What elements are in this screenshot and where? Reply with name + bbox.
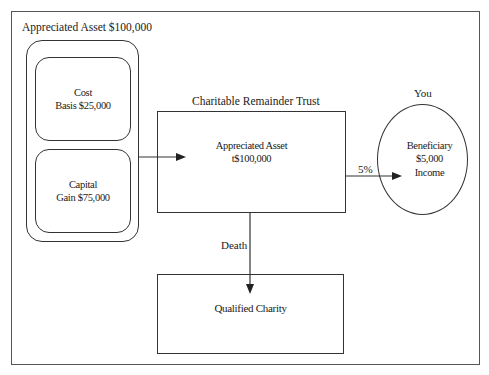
connector-lines — [0, 0, 489, 375]
arrowhead-icon — [392, 172, 402, 180]
arrowhead-icon — [246, 284, 254, 294]
arrowhead-icon — [176, 153, 186, 161]
